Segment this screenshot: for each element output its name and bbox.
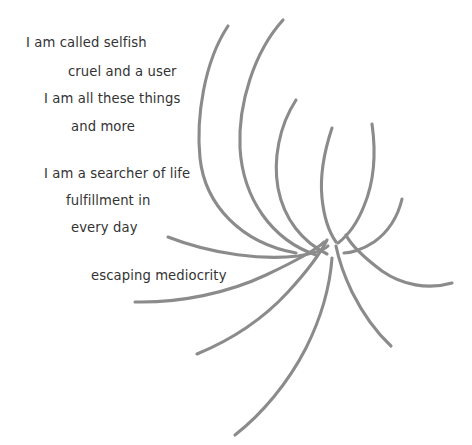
swirl-arc [338, 124, 374, 243]
swirl-arc [276, 100, 327, 254]
poem-line-5: I am a searcher of life [44, 166, 190, 181]
poem-line-1: I am called selfish [26, 35, 147, 50]
swirl-arc [346, 235, 452, 286]
poem-line-8: escaping mediocrity [91, 268, 227, 283]
poem-line-3: I am all these things [44, 91, 181, 106]
poem-line-4: and more [71, 119, 135, 134]
poem-text-block: I am called selfish cruel and a user I a… [0, 0, 260, 445]
swirl-arc [336, 246, 391, 346]
poem-line-2: cruel and a user [68, 64, 177, 79]
artwork-canvas: I am called selfish cruel and a user I a… [0, 0, 472, 445]
poem-line-6: fulfillment in [66, 193, 150, 208]
poem-line-7: every day [71, 220, 138, 235]
swirl-arc [321, 128, 336, 242]
